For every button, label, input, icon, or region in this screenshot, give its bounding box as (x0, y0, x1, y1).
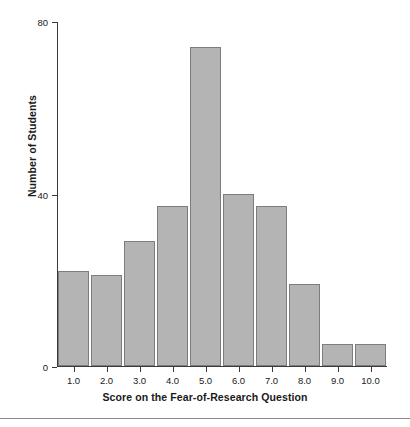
x-axis-tick-label: 7.0 (265, 375, 278, 386)
histogram-figure: Number of Students 04080 1.02.03.04.05.0… (0, 0, 410, 427)
histogram-bar (124, 241, 155, 366)
y-axis-tick-mark (52, 195, 57, 196)
y-axis-tick-mark (52, 367, 57, 368)
y-axis-tick-label: 0 (43, 362, 48, 373)
plot-area: 04080 1.02.03.04.05.06.07.08.09.010.0 (57, 22, 387, 367)
y-axis-title: Number of Students (26, 66, 38, 226)
x-axis-tick-mark (371, 367, 372, 372)
x-axis-tick-mark (173, 367, 174, 372)
histogram-bar (157, 206, 188, 366)
x-axis-tick-mark (239, 367, 240, 372)
x-axis-tick-label: 10.0 (361, 375, 380, 386)
x-axis-tick-mark (272, 367, 273, 372)
x-axis-tick-label: 6.0 (232, 375, 245, 386)
x-axis-tick-mark (305, 367, 306, 372)
x-axis-tick-mark (338, 367, 339, 372)
x-axis-tick-label: 9.0 (331, 375, 344, 386)
x-axis-title: Score on the Fear-of-Research Question (0, 391, 410, 403)
y-axis-tick-label: 40 (37, 189, 48, 200)
histogram-bar (289, 284, 320, 366)
histogram-bar (355, 344, 386, 366)
x-axis-tick-label: 3.0 (133, 375, 146, 386)
x-axis-tick-label: 8.0 (298, 375, 311, 386)
x-axis-tick-label: 4.0 (166, 375, 179, 386)
x-axis-tick-mark (206, 367, 207, 372)
histogram-bar (91, 275, 122, 366)
x-axis-tick-mark (107, 367, 108, 372)
histogram-bar (58, 271, 89, 366)
x-axis-tick-label: 5.0 (199, 375, 212, 386)
histogram-bar (190, 47, 221, 366)
y-axis-tick-mark (52, 22, 57, 23)
histogram-bar (223, 194, 254, 367)
x-axis-tick-mark (74, 367, 75, 372)
histogram-bar (322, 344, 353, 366)
y-axis-tick-label: 80 (37, 17, 48, 28)
histogram-bar (256, 206, 287, 366)
x-axis-tick-mark (140, 367, 141, 372)
x-axis-tick-label: 1.0 (67, 375, 80, 386)
x-axis-tick-label: 2.0 (100, 375, 113, 386)
footer-divider (0, 418, 410, 419)
